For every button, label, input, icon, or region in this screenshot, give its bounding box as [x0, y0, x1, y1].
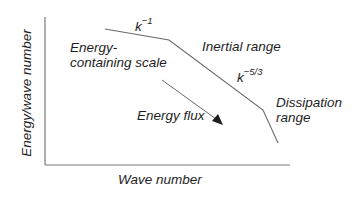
slope-label-k-minus-1: k−1	[135, 14, 153, 34]
energy-containing-label-line2: containing scale	[70, 55, 167, 70]
slope-exponent: −1	[142, 15, 153, 26]
dissipation-label-line2: range	[276, 110, 311, 125]
energy-containing-label-line1: Energy-	[70, 40, 117, 55]
dissipation-label-line1: Dissipation	[276, 95, 342, 110]
inertial-range-label: Inertial range	[202, 39, 281, 54]
energy-flux-arrowhead-icon	[212, 114, 223, 125]
y-axis-label: Energy/wave number	[19, 29, 34, 157]
spectrum-diagram: Energy/wave number Wave number k−1 Energ…	[0, 0, 357, 198]
x-axis-label: Wave number	[118, 172, 202, 187]
slope-exponent: −5/3	[244, 66, 263, 77]
energy-flux-label: Energy flux	[137, 108, 205, 123]
slope-label-k-minus-5-3: k−5/3	[237, 65, 263, 85]
slope-base: k	[135, 19, 142, 34]
slope-base: k	[237, 70, 244, 85]
